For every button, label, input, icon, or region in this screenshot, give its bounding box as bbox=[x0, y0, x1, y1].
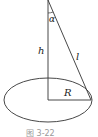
height-label: h bbox=[38, 45, 44, 56]
angle-label: α bbox=[49, 14, 55, 24]
angle-arc bbox=[48, 12, 53, 13]
slant-label: l bbox=[76, 51, 79, 62]
radius-label: R bbox=[63, 87, 72, 98]
figure-caption: 图 3-22 bbox=[26, 129, 55, 137]
cone-diagram: α h l R 图 3-22 bbox=[0, 0, 98, 137]
